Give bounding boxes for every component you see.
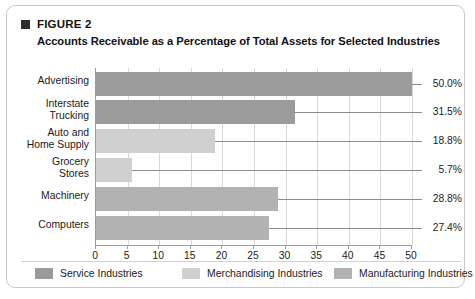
value-label-grocery-stores: 5.7% — [418, 164, 462, 175]
category-label-machinery: Machinery — [11, 190, 89, 202]
legend-swatch-icon — [334, 268, 352, 279]
tick-40 — [348, 245, 349, 249]
legend-item-manufacturing-industries[interactable]: Manufacturing Industries — [334, 268, 473, 279]
legend-label: Service Industries — [60, 268, 143, 279]
leader-line-auto-and-home-supply — [215, 141, 422, 142]
figure-label-row: FIGURE 2 — [21, 17, 454, 31]
tick-20 — [221, 245, 222, 249]
category-label-auto-and-home-supply: Auto and Home Supply — [11, 127, 89, 150]
bar-machinery[interactable] — [96, 187, 278, 211]
tick-15 — [190, 245, 191, 249]
chart-legend: Service Industries Merchandising Industr… — [21, 261, 461, 283]
category-label-line: Interstate — [11, 98, 89, 110]
tick-45 — [379, 245, 380, 249]
tick-30 — [285, 245, 286, 249]
value-label-machinery: 28.8% — [418, 193, 462, 204]
leader-line-interstate-trucking — [295, 112, 422, 113]
category-label-interstate-trucking: Interstate Trucking — [11, 98, 89, 121]
figure-card: FIGURE 2 Accounts Receivable as a Percen… — [6, 5, 465, 288]
figure-number: FIGURE 2 — [37, 18, 92, 30]
gridline-50 — [412, 68, 413, 245]
figure-title: Accounts Receivable as a Percentage of T… — [37, 35, 454, 47]
category-label-line: Advertising — [11, 75, 89, 87]
legend-label: Manufacturing Industries — [359, 268, 473, 279]
x-tick-label: 10 — [152, 250, 163, 261]
category-label-line: Computers — [11, 219, 89, 231]
x-tick-label: 0 — [92, 250, 98, 261]
plot-area — [95, 68, 411, 245]
bar-computers[interactable] — [96, 216, 269, 240]
value-label-computers: 27.4% — [418, 222, 462, 233]
category-label-line: Auto and — [11, 127, 89, 139]
category-label-line: Trucking — [11, 110, 89, 122]
category-label-computers: Computers — [11, 219, 89, 231]
figure-header: FIGURE 2 Accounts Receivable as a Percen… — [21, 17, 454, 47]
category-label-line: Home Supply — [11, 139, 89, 151]
category-label-line: Stores — [11, 168, 89, 180]
legend-label: Merchandising Industries — [207, 268, 323, 279]
bar-chart: 0 5 10 15 20 25 30 35 40 45 50 Advertisi… — [7, 62, 464, 252]
tick-5 — [127, 245, 128, 249]
value-label-interstate-trucking: 31.5% — [418, 106, 462, 117]
x-tick-label: 5 — [124, 250, 130, 261]
legend-item-merchandising-industries[interactable]: Merchandising Industries — [182, 268, 323, 279]
x-tick-label: 40 — [342, 250, 353, 261]
category-label-line: Machinery — [11, 190, 89, 202]
leader-line-machinery — [278, 199, 422, 200]
bar-grocery-stores[interactable] — [96, 158, 132, 182]
value-label-auto-and-home-supply: 18.8% — [418, 135, 462, 146]
x-tick-label: 35 — [310, 250, 321, 261]
filled-square-icon — [21, 20, 30, 29]
bar-interstate-trucking[interactable] — [96, 100, 295, 124]
x-tick-label: 45 — [374, 250, 385, 261]
category-label-line: Grocery — [11, 156, 89, 168]
tick-25 — [253, 245, 254, 249]
bar-auto-and-home-supply[interactable] — [96, 129, 215, 153]
leader-line-computers — [269, 228, 422, 229]
bar-advertising[interactable] — [96, 72, 412, 96]
tick-35 — [316, 245, 317, 249]
legend-swatch-icon — [182, 268, 200, 279]
x-tick-label: 25 — [247, 250, 258, 261]
category-label-advertising: Advertising — [11, 75, 89, 87]
x-tick-label: 20 — [216, 250, 227, 261]
x-tick-label: 30 — [279, 250, 290, 261]
value-label-advertising: 50.0% — [418, 78, 462, 89]
tick-0 — [95, 245, 96, 249]
x-tick-label: 15 — [184, 250, 195, 261]
tick-50 — [411, 245, 412, 249]
legend-item-service-industries[interactable]: Service Industries — [35, 268, 143, 279]
x-tick-label: 50 — [405, 250, 416, 261]
tick-10 — [158, 245, 159, 249]
leader-line-grocery-stores — [132, 170, 422, 171]
legend-swatch-icon — [35, 268, 53, 279]
category-label-grocery-stores: Grocery Stores — [11, 156, 89, 179]
bar-row — [96, 72, 411, 96]
